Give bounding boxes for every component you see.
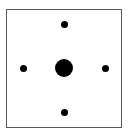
top-dot — [61, 21, 68, 28]
left-dot — [20, 65, 27, 72]
figure-canvas — [0, 0, 129, 135]
bottom-dot — [61, 109, 68, 116]
center-dot — [55, 59, 73, 77]
right-dot — [102, 65, 109, 72]
